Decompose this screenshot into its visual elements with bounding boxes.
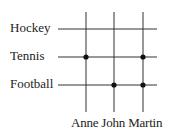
column-label-anne: Anne: [71, 115, 98, 130]
dot-anne-tennis: [83, 54, 88, 59]
dot-john-football: [111, 82, 116, 87]
grid-diagram: Hockey Tennis Football AnneJohnMartin: [0, 0, 170, 137]
dot-martin-tennis: [140, 54, 145, 59]
column-labels: AnneJohnMartin: [71, 116, 165, 130]
column-label-john: John: [101, 115, 125, 130]
dot-martin-football: [140, 82, 145, 87]
column-label-martin: Martin: [128, 115, 162, 130]
